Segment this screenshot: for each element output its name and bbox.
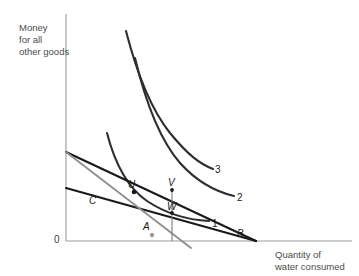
x-axis-label-line2: water consumed <box>275 261 345 272</box>
y-axis-label-line2: for all <box>19 34 42 45</box>
point-dot-u <box>132 190 137 195</box>
point-label-w: W <box>167 201 176 212</box>
curve-label-2: 2 <box>237 192 243 203</box>
x-axis-label-line1: Quantity of <box>275 249 321 260</box>
point-label-v: V <box>168 177 175 188</box>
point-label-u: U <box>128 179 135 190</box>
point-label-b: B <box>237 228 244 239</box>
point-dot-v <box>170 188 174 192</box>
y-axis-label-line1: Money <box>19 22 48 33</box>
curve-label-3: 3 <box>215 164 221 175</box>
y-axis-label-line3: other goods <box>19 46 69 57</box>
indifference-curve-2 <box>135 58 234 196</box>
origin-label: 0 <box>54 234 60 245</box>
point-label-a: A <box>143 221 150 232</box>
figure-canvas: Money for all other goods Quantity of wa… <box>0 0 359 276</box>
curve-label-1: 1 <box>212 218 218 229</box>
point-dot-a <box>150 233 154 237</box>
indifference-curves-group <box>107 31 234 221</box>
axes-group <box>66 14 352 241</box>
point-label-c: C <box>89 195 96 206</box>
